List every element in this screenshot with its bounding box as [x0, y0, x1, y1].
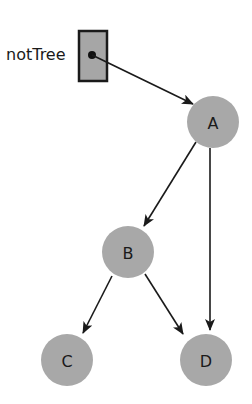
svg-text:B: B	[123, 244, 134, 263]
pointer-label: notTree	[6, 45, 66, 64]
edge-B-C	[83, 276, 112, 333]
edge-B-D	[145, 274, 183, 334]
svg-text:D: D	[200, 352, 212, 371]
tree-node-A: A	[187, 96, 239, 148]
svg-text:C: C	[61, 352, 72, 371]
svg-text:A: A	[208, 114, 219, 133]
edge-A-B	[144, 142, 196, 226]
tree-node-B: B	[102, 226, 154, 278]
tree-diagram: notTree A B C D	[0, 0, 252, 404]
tree-node-D: D	[180, 334, 232, 386]
tree-node-C: C	[41, 334, 93, 386]
